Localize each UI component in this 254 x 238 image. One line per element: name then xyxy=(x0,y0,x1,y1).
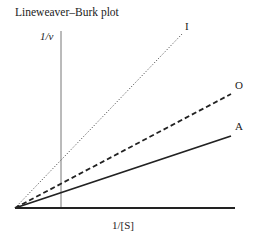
series-line-o xyxy=(15,94,231,208)
series-line-a xyxy=(15,136,231,208)
series-line-i xyxy=(15,33,183,208)
plot-area xyxy=(0,0,254,238)
